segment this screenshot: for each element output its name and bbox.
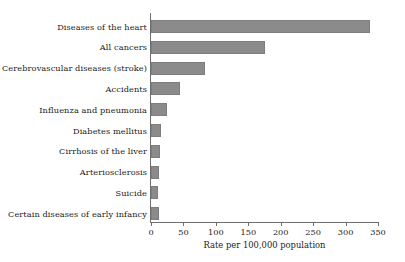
bar-row: Cirrhosis of the liver	[151, 145, 160, 158]
x-tick	[183, 222, 184, 226]
x-axis-title: Rate per 100,000 population	[151, 240, 378, 250]
bar	[151, 186, 158, 199]
x-tick-label: 50	[178, 227, 188, 237]
bar-row: Certain diseases of early infancy	[151, 207, 159, 220]
category-label: Arteriosclerosis	[80, 167, 151, 177]
category-label: Accidents	[106, 84, 151, 94]
x-tick	[281, 222, 282, 226]
category-label: Diseases of the heart	[57, 22, 151, 32]
x-tick	[313, 222, 314, 226]
bar	[151, 124, 161, 137]
x-tick-label: 350	[370, 227, 386, 237]
category-label: Cerebrovascular diseases (stroke)	[2, 63, 151, 73]
bar-row: Suicide	[151, 186, 158, 199]
x-tick-label: 0	[148, 227, 153, 237]
bar	[151, 62, 205, 75]
bar	[151, 166, 159, 179]
category-label: Cirrhosis of the liver	[59, 146, 151, 156]
x-tick-label: 250	[305, 227, 321, 237]
bar	[151, 82, 180, 95]
x-tick-label: 100	[208, 227, 224, 237]
bar-row: Cerebrovascular diseases (stroke)	[151, 62, 205, 75]
x-tick	[378, 222, 379, 226]
bar	[151, 145, 160, 158]
plot-area: Diseases of the heartAll cancersCerebrov…	[151, 14, 378, 222]
x-tick	[346, 222, 347, 226]
x-tick	[216, 222, 217, 226]
x-tick	[151, 222, 152, 226]
x-tick	[248, 222, 249, 226]
x-tick-label: 300	[338, 227, 354, 237]
x-tick-label: 150	[240, 227, 256, 237]
bar	[151, 20, 370, 33]
bar	[151, 41, 265, 54]
category-label: Influenza and pneumonia	[39, 105, 151, 115]
bar-row: Arteriosclerosis	[151, 166, 159, 179]
bar-row: Accidents	[151, 82, 180, 95]
bar-chart: Diseases of the heartAll cancersCerebrov…	[0, 0, 405, 262]
bar	[151, 103, 167, 116]
bar	[151, 207, 159, 220]
bar-row: Diseases of the heart	[151, 20, 370, 33]
category-label: Diabetes mellitus	[73, 126, 151, 136]
category-label: Certain diseases of early infancy	[8, 209, 151, 219]
category-label: Suicide	[116, 188, 152, 198]
category-label: All cancers	[100, 42, 151, 52]
bar-row: All cancers	[151, 41, 265, 54]
bar-row: Diabetes mellitus	[151, 124, 161, 137]
x-tick-label: 200	[273, 227, 289, 237]
bar-row: Influenza and pneumonia	[151, 103, 167, 116]
